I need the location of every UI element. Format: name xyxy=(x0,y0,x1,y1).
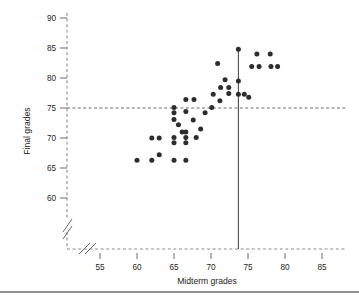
x-axis-ticks xyxy=(100,253,322,259)
y-axis-ticks xyxy=(60,18,67,198)
y-axis-break-slash-1 xyxy=(63,219,72,232)
data-point xyxy=(246,95,251,100)
data-point xyxy=(268,52,273,57)
y-tick-label-90: 90 xyxy=(47,14,57,23)
data-point xyxy=(275,64,280,69)
reference-lines xyxy=(67,49,346,249)
y-tick-label-85: 85 xyxy=(47,44,57,53)
x-tick-label-75: 75 xyxy=(243,263,253,272)
data-point xyxy=(172,135,177,140)
data-point xyxy=(191,97,196,102)
data-point xyxy=(183,158,188,163)
data-point xyxy=(249,64,254,69)
y-tick-label-80: 80 xyxy=(47,74,57,83)
data-point xyxy=(236,92,241,97)
x-tick-label-80: 80 xyxy=(280,263,290,272)
data-point xyxy=(223,77,228,82)
data-point xyxy=(172,158,177,163)
data-point xyxy=(183,97,188,102)
x-axis-tick-labels: 55606570758085 xyxy=(95,263,327,272)
data-point xyxy=(226,85,231,90)
data-point xyxy=(211,92,216,97)
x-tick-label-70: 70 xyxy=(206,263,216,272)
data-point xyxy=(149,158,154,163)
x-tick-label-60: 60 xyxy=(132,263,142,272)
x-tick-label-85: 85 xyxy=(317,263,327,272)
data-point xyxy=(183,130,188,135)
data-point xyxy=(268,64,273,69)
scatter-plot-figure: 60657075808590 55606570758085 Midterm gr… xyxy=(0,0,359,295)
data-point xyxy=(203,110,208,115)
data-point xyxy=(172,117,177,122)
y-axis-tick-labels: 60657075808590 xyxy=(47,14,57,203)
data-point xyxy=(242,92,247,97)
data-point xyxy=(183,109,188,114)
data-point xyxy=(254,52,259,57)
data-point xyxy=(215,61,220,66)
data-point xyxy=(226,91,231,96)
y-tick-label-65: 65 xyxy=(47,164,57,173)
data-point xyxy=(183,140,188,145)
data-point xyxy=(149,136,154,141)
data-point xyxy=(135,158,140,163)
y-tick-label-70: 70 xyxy=(47,134,57,143)
y-tick-label-60: 60 xyxy=(47,194,57,203)
data-point xyxy=(157,152,162,157)
data-point xyxy=(172,140,177,145)
data-point xyxy=(217,98,222,103)
data-point xyxy=(176,122,181,127)
data-point xyxy=(172,105,177,110)
data-point xyxy=(209,105,214,110)
data-point xyxy=(198,127,203,132)
data-point xyxy=(236,47,241,52)
data-point xyxy=(257,64,262,69)
data-point xyxy=(236,79,241,84)
x-tick-label-65: 65 xyxy=(169,263,179,272)
y-tick-label-75: 75 xyxy=(47,104,57,113)
axis-frame xyxy=(67,13,346,249)
y-axis-break-slash-2 xyxy=(63,226,72,239)
plot-canvas: 60657075808590 55606570758085 Midterm gr… xyxy=(0,0,359,295)
data-point xyxy=(157,136,162,141)
data-point xyxy=(183,135,188,140)
data-point xyxy=(194,135,199,140)
y-axis-title: Final grades xyxy=(22,107,32,154)
x-axis-title: Midterm grades xyxy=(177,276,237,286)
data-point xyxy=(218,85,223,90)
data-point xyxy=(172,110,177,115)
data-points xyxy=(135,47,281,163)
x-tick-label-55: 55 xyxy=(95,263,105,272)
data-point xyxy=(191,118,196,123)
